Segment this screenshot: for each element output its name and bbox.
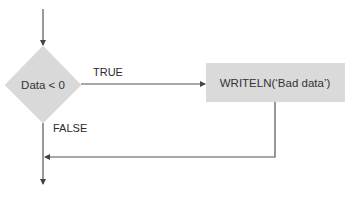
flowchart: Data < 0 TRUE WRITELN(‘Bad data’) FALSE <box>0 0 360 197</box>
action-label: WRITELN(‘Bad data’) <box>220 77 331 89</box>
false-edge-label: FALSE <box>53 122 87 134</box>
true-edge-label: TRUE <box>93 66 123 78</box>
decision-label: Data < 0 <box>21 79 65 91</box>
